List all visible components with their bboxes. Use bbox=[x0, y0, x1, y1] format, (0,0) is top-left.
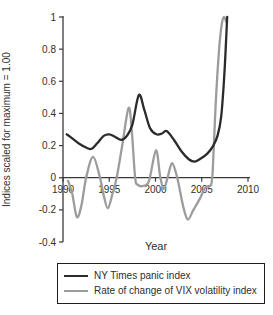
y-tick-label: 0.6 bbox=[42, 76, 56, 87]
y-tick-label: 0.4 bbox=[42, 108, 56, 119]
legend-item-ny-times-panic-index: NY Times panic index bbox=[64, 268, 257, 283]
legend-line-sample-gray-icon bbox=[64, 290, 88, 292]
legend-label-ny-times: NY Times panic index bbox=[94, 270, 191, 281]
y-axis-title: Indices scaled for maximum = 1.00 bbox=[1, 16, 12, 244]
legend-item-vix-rate-of-change: Rate of change of VIX volatility index bbox=[64, 283, 257, 298]
x-tick-label: 2010 bbox=[237, 184, 260, 195]
y-tick-label: 0.2 bbox=[42, 140, 56, 151]
series-line-0 bbox=[67, 17, 227, 162]
panic-vix-line-chart-figure: 10.80.60.40.20-0.2-0.4199019952000200520… bbox=[0, 0, 273, 315]
x-axis-title: Year bbox=[63, 240, 249, 252]
y-tick-label: 0 bbox=[50, 172, 56, 183]
chart-legend: NY Times panic index Rate of change of V… bbox=[57, 263, 265, 304]
line-chart-canvas: 10.80.60.40.20-0.2-0.4199019952000200520… bbox=[0, 0, 273, 260]
y-tick-label: 1 bbox=[50, 12, 56, 23]
legend-label-vix: Rate of change of VIX volatility index bbox=[94, 285, 257, 296]
legend-line-sample-dark-icon bbox=[64, 275, 88, 277]
y-tick-label: -0.4 bbox=[39, 237, 57, 248]
y-tick-label: -0.2 bbox=[39, 204, 57, 215]
y-tick-label: 0.8 bbox=[42, 44, 56, 55]
